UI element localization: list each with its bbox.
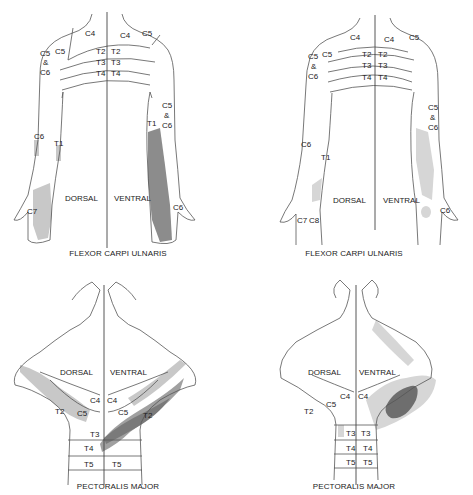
caption-fcu-right: FLEXOR CARPI ULNARIS xyxy=(236,249,472,258)
label-c4-ventral: C4 xyxy=(107,396,118,405)
label-c8: C8 xyxy=(309,216,320,225)
body-chart-fcu-right: C4 C4 C5 C5 C5 & C6 T2 T2 T3 T3 T4 T4 C6… xyxy=(236,0,473,250)
label-c5c6-ventral-3: C6 xyxy=(428,123,439,132)
label-t3-ventral: T3 xyxy=(111,58,121,67)
label-t2-dorsal: T2 xyxy=(362,50,372,59)
label-t3-dorsal: T3 xyxy=(346,429,356,438)
label-c4-ventral: C4 xyxy=(358,392,369,401)
label-c5c6-dorsal-2: & xyxy=(43,58,49,67)
label-t3: T3 xyxy=(90,430,100,439)
label-t4-dorsal: T4 xyxy=(362,73,372,82)
shading-light-dorsal-wrist xyxy=(312,178,322,202)
label-t5-ventral: T5 xyxy=(363,458,373,467)
label-t3-ventral: T3 xyxy=(378,61,388,70)
label-t2-ventral: T2 xyxy=(111,47,121,56)
figure-pm-left: C4 C4 C5 C5 T2 T2 T3 T4 T5 T5 DORSAL VEN… xyxy=(0,260,236,485)
shading-light-t3 xyxy=(338,425,344,437)
figure-pm-right: C4 C4 C5 T2 T3 T3 T4 T4 T5 T5 DORSAL VEN… xyxy=(236,260,473,485)
label-c6-dorsal: C6 xyxy=(301,140,312,149)
label-t2-ventral: T2 xyxy=(378,50,388,59)
label-ventral: VENTRAL xyxy=(110,368,147,377)
label-c5-ventral: C5 xyxy=(118,408,129,417)
label-c5c6-ventral-1: C5 xyxy=(428,103,439,112)
shading-light-palm xyxy=(421,206,431,218)
label-c5c6-ventral-1: C5 xyxy=(162,101,173,110)
shading-light-ventral-forearm xyxy=(416,128,434,200)
label-t3-dorsal: T3 xyxy=(362,61,372,70)
label-t2-dorsal: T2 xyxy=(304,407,314,416)
caption-pm-left: PECTORALIS MAJOR xyxy=(0,482,236,491)
label-t2-dorsal: T2 xyxy=(55,407,65,416)
label-t2-dorsal: T2 xyxy=(96,47,106,56)
label-c5-ventral: C5 xyxy=(142,29,153,38)
label-c7: C7 xyxy=(27,207,38,216)
label-c4-ventral: C4 xyxy=(384,35,395,44)
label-c4-dorsal: C4 xyxy=(90,396,101,405)
label-t4-dorsal: T4 xyxy=(96,69,106,78)
label-c6-ventral: C6 xyxy=(173,203,184,212)
label-t2-ventral: T2 xyxy=(143,411,153,420)
label-c5c6-ventral-3: C6 xyxy=(162,121,173,130)
label-c5c6-ventral-2: & xyxy=(430,113,436,122)
label-c5c6-dorsal-2: & xyxy=(311,62,317,71)
label-t4: T4 xyxy=(84,444,94,453)
label-dorsal: DORSAL xyxy=(333,196,366,205)
label-c5c6-dorsal-3: C6 xyxy=(40,68,51,77)
label-t5-dorsal: T5 xyxy=(346,458,356,467)
label-c7: C7 xyxy=(297,216,308,225)
label-t4-ventral: T4 xyxy=(111,69,121,78)
label-c5-dorsal: C5 xyxy=(77,409,88,418)
label-ventral: VENTRAL xyxy=(114,194,151,203)
label-ventral: VENTRAL xyxy=(359,368,396,377)
figure-fcu-left: C4 C4 C5 C5 C5 & C6 T2 T2 T3 T3 T4 T4 C6… xyxy=(0,0,236,250)
label-t5-dorsal: T5 xyxy=(84,460,94,469)
label-c5-ventral: C5 xyxy=(409,33,420,42)
label-t1-ventral: T1 xyxy=(147,119,157,128)
caption-pm-right: PECTORALIS MAJOR xyxy=(236,482,472,491)
body-chart-pm-right: C4 C4 C5 T2 T3 T3 T4 T4 T5 T5 DORSAL VEN… xyxy=(236,260,473,485)
label-t3-ventral: T3 xyxy=(361,429,371,438)
label-c5-dorsal: C5 xyxy=(322,50,333,59)
caption-fcu-left: FLEXOR CARPI ULNARIS xyxy=(0,249,236,258)
label-dorsal: DORSAL xyxy=(65,194,98,203)
label-t4-ventral: T4 xyxy=(378,73,388,82)
label-c5-dorsal: C5 xyxy=(326,400,337,409)
label-ventral: VENTRAL xyxy=(383,196,420,205)
label-c6-ventral: C6 xyxy=(440,206,451,215)
label-c4-dorsal: C4 xyxy=(340,392,351,401)
label-c5c6-ventral-2: & xyxy=(164,111,170,120)
label-c5c6-dorsal-1: C5 xyxy=(40,49,51,58)
label-dorsal: DORSAL xyxy=(60,368,93,377)
label-t4-dorsal: T4 xyxy=(346,444,356,453)
label-c5-dorsal: C5 xyxy=(55,47,66,56)
label-dorsal: DORSAL xyxy=(308,368,341,377)
label-c5c6-dorsal-1: C5 xyxy=(308,52,319,61)
label-t5-ventral: T5 xyxy=(112,460,122,469)
figure-fcu-right: C4 C4 C5 C5 C5 & C6 T2 T2 T3 T3 T4 T4 C6… xyxy=(236,0,473,250)
label-c5c6-dorsal-3: C6 xyxy=(308,72,319,81)
label-c4-dorsal: C4 xyxy=(85,29,96,38)
shading-light-ventral-arm xyxy=(372,320,414,366)
label-c6-dorsal: C6 xyxy=(34,132,45,141)
label-t3-dorsal: T3 xyxy=(96,58,106,67)
label-c4-ventral: C4 xyxy=(120,31,131,40)
body-chart-pm-left: C4 C4 C5 C5 T2 T2 T3 T4 T5 T5 DORSAL VEN… xyxy=(0,260,236,485)
label-t1-dorsal: T1 xyxy=(54,139,64,148)
label-t4-ventral: T4 xyxy=(363,444,373,453)
label-t1-dorsal: T1 xyxy=(321,153,331,162)
shading-dark-ventral-forearm xyxy=(148,128,172,242)
body-chart-fcu-left: C4 C4 C5 C5 C5 & C6 T2 T2 T3 T3 T4 T4 C6… xyxy=(0,0,236,250)
label-c4-dorsal: C4 xyxy=(350,33,361,42)
